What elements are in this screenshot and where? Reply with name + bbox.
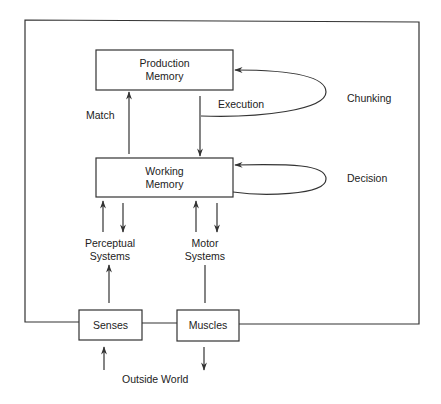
muscles-text: Muscles [189,319,228,332]
production-memory-line1: Production [139,57,189,70]
senses-text: Senses [93,319,128,332]
execution-label: Execution [218,98,264,111]
working-memory-label: Working Memory [96,158,233,197]
perceptual-line2: Systems [80,250,140,263]
motor-line1: Motor [175,237,235,250]
muscles-label: Muscles [177,310,239,341]
production-memory-label: Production Memory [96,50,233,90]
motor-line2: Systems [175,250,235,263]
decision-label: Decision [347,172,387,185]
chunking-label: Chunking [347,92,391,105]
perceptual-line1: Perceptual [80,237,140,250]
senses-label: Senses [79,310,142,340]
match-label: Match [86,109,115,122]
motor-systems-label: Motor Systems [175,237,235,263]
production-memory-line2: Memory [146,70,184,83]
perceptual-systems-label: Perceptual Systems [80,237,140,263]
working-memory-line1: Working [145,165,183,178]
outside-world-label: Outside World [122,373,188,386]
decision-loop-arrow [233,165,326,195]
working-memory-line2: Memory [146,178,184,191]
